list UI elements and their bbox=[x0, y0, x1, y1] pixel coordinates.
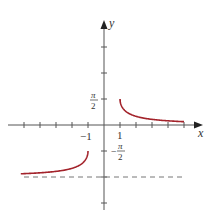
graph-canvas: y x −1 1 π 2 − π 2 bbox=[0, 0, 220, 219]
svg-text:2: 2 bbox=[118, 152, 123, 162]
y-axis-label: y bbox=[108, 16, 115, 30]
curve-left-branch bbox=[21, 151, 88, 174]
tick-label-neg-pi-over-2: − π 2 bbox=[111, 141, 125, 162]
y-axis-arrow-icon bbox=[101, 20, 108, 29]
svg-text:π: π bbox=[91, 90, 96, 100]
curve-right-branch bbox=[120, 99, 184, 122]
y-axis bbox=[101, 20, 108, 210]
tick-label-1: 1 bbox=[117, 129, 123, 141]
svg-text:−: − bbox=[111, 146, 117, 157]
x-axis bbox=[8, 122, 203, 129]
svg-text:2: 2 bbox=[91, 101, 96, 111]
tick-label-neg1: −1 bbox=[80, 130, 92, 142]
svg-text:π: π bbox=[118, 141, 123, 151]
tick-label-pi-over-2: π 2 bbox=[90, 90, 98, 111]
x-axis-label: x bbox=[197, 126, 204, 140]
